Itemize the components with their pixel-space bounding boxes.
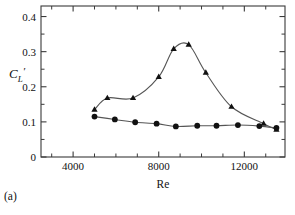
x-tick-label: 4000: [62, 160, 85, 172]
circle-series-marker: [194, 123, 200, 129]
plot-frame: [41, 6, 285, 157]
chart-canvas: 400080001200000.10.20.30.4ReCL′: [0, 0, 295, 215]
panel-caption: (a): [4, 190, 17, 202]
circle-series-line: [95, 117, 277, 128]
circle-series-marker: [154, 121, 160, 127]
figure-panel: 400080001200000.10.20.30.4ReCL′ (a): [0, 0, 295, 215]
x-tick-label: 12000: [231, 160, 259, 172]
x-tick-label: 8000: [148, 160, 171, 172]
y-tick-label: 0.3: [22, 46, 36, 58]
y-tick-label: 0: [31, 151, 37, 163]
triangle-series-line: [95, 43, 277, 130]
circle-series-marker: [132, 119, 138, 125]
circle-series-marker: [214, 123, 220, 129]
circle-series-marker: [92, 114, 98, 120]
y-tick-label: 0.1: [22, 116, 36, 128]
x-axis-title: Re: [157, 178, 170, 190]
circle-series-marker: [112, 117, 118, 123]
circle-series-marker: [256, 123, 262, 129]
y-tick-label: 0.2: [22, 81, 36, 93]
circle-series-marker: [235, 122, 241, 128]
circle-series-marker: [173, 124, 179, 130]
y-tick-label: 0.4: [22, 11, 36, 23]
circle-series-marker: [274, 125, 280, 131]
